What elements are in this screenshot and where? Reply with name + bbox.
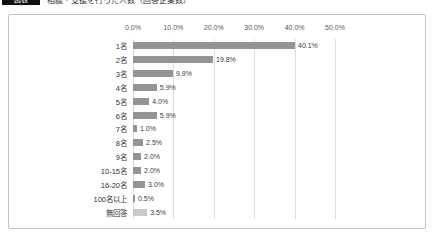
bar-row: 16-20名3.0% [9,177,425,191]
bar [133,42,295,49]
figure-title: 相談・支援を行った人数（回答企業数） [47,0,191,6]
value-label: 5.9% [160,112,176,119]
bar [133,112,157,119]
bar [133,139,143,146]
category-label: 6名 [9,110,127,121]
value-label: 9.9% [176,70,192,77]
bar [133,84,157,91]
bar-row: 10-15名2.0% [9,164,425,178]
value-label: 1.0% [140,125,156,132]
bar [133,98,149,105]
x-axis-tick-label: 10.0% [153,24,193,31]
bar-chart-plot-area: 0.0%10.0%20.0%30.0%40.0%50.0%1名40.1%2名19… [9,15,425,228]
bar-row: 8名2.5% [9,136,425,150]
category-label: 16-20名 [9,179,127,190]
bar-row: 3名9.9% [9,67,425,81]
bar [133,56,213,63]
category-label: 9名 [9,151,127,162]
value-label: 19.8% [216,56,236,63]
chart-container: 0.0%10.0%20.0%30.0%40.0%50.0%1名40.1%2名19… [8,14,426,229]
bar [133,153,141,160]
category-label: 4名 [9,82,127,93]
value-label: 2.0% [144,153,160,160]
figure-header: 図表 相談・支援を行った人数（回答企業数） [0,0,434,8]
x-axis-tick-label: 50.0% [315,24,355,31]
value-label: 2.5% [146,139,162,146]
value-label: 3.5% [150,209,166,216]
value-label: 40.1% [298,42,318,49]
x-axis-tick-label: 0.0% [113,24,153,31]
bar-row: 無回答3.5% [9,205,425,219]
bar [133,209,147,216]
figure-number-badge: 図表 [2,0,40,5]
value-label: 2.0% [144,167,160,174]
category-label: 10-15名 [9,165,127,176]
category-label: 1名 [9,40,127,51]
category-label: 2名 [9,54,127,65]
bar-row: 6名5.9% [9,108,425,122]
bar [133,70,173,77]
bar-row: 2名19.8% [9,53,425,67]
bar [133,167,141,174]
bar-row: 7名1.0% [9,122,425,136]
bar [133,195,135,202]
category-label: 7名 [9,123,127,134]
value-label: 0.5% [138,195,154,202]
x-axis-tick-label: 30.0% [234,24,274,31]
bar [133,125,137,132]
category-label: 無回答 [9,207,127,218]
category-label: 5名 [9,96,127,107]
bar-row: 1名40.1% [9,39,425,53]
bar [133,181,145,188]
value-label: 5.9% [160,84,176,91]
bar-row: 4名5.9% [9,81,425,95]
x-axis-tick-label: 20.0% [194,24,234,31]
x-axis-tick-label: 40.0% [275,24,315,31]
bar-rows: 1名40.1%2名19.8%3名9.9%4名5.9%5名4.0%6名5.9%7名… [9,39,425,219]
bar-row: 9名2.0% [9,150,425,164]
category-label: 3名 [9,68,127,79]
bar-row: 5名4.0% [9,94,425,108]
bar-row: 100名以上0.5% [9,191,425,205]
category-label: 8名 [9,137,127,148]
category-label: 100名以上 [9,193,127,204]
value-label: 4.0% [152,98,168,105]
value-label: 3.0% [148,181,164,188]
